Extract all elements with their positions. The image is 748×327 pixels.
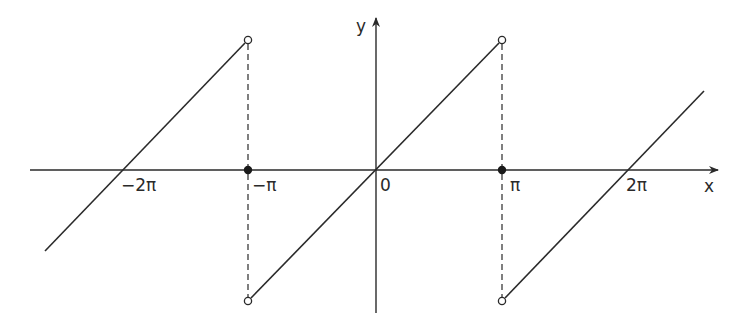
filled-point-neg-pi <box>244 166 252 174</box>
tick-label-neg-pi: −π <box>252 175 276 195</box>
open-point-neg-pi-top <box>244 36 251 43</box>
tick-label-2pi: 2π <box>626 175 647 195</box>
open-point-pi-top <box>498 36 505 43</box>
filled-point-pi <box>498 166 506 174</box>
sawtooth-diagram: −2π −π 0 π 2π x y <box>0 0 748 327</box>
tick-label-pi: π <box>510 175 520 195</box>
y-axis-label: y <box>356 16 366 36</box>
open-point-pi-bottom <box>498 297 505 304</box>
diagram-canvas: −2π −π 0 π 2π x y <box>0 0 748 327</box>
segment-right <box>505 91 704 298</box>
segment-left <box>45 43 245 251</box>
open-point-neg-pi-bottom <box>244 297 251 304</box>
x-axis-label: x <box>704 176 714 196</box>
tick-label-neg-2pi: −2π <box>121 175 156 195</box>
tick-label-zero: 0 <box>380 175 391 195</box>
